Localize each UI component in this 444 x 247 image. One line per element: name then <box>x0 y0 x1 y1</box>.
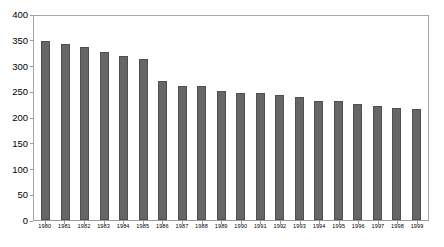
bar-slot <box>153 16 173 220</box>
x-axis-tick-slot: 1996 <box>349 224 369 240</box>
x-axis-tick-mark <box>104 221 105 224</box>
bar-slot <box>134 16 154 220</box>
bar[interactable] <box>295 97 304 220</box>
y-axis-tick-label: 350 <box>12 36 28 46</box>
bar[interactable] <box>41 41 50 220</box>
x-axis-tick-label: 1992 <box>270 224 290 230</box>
bar[interactable] <box>178 86 187 220</box>
bar[interactable] <box>197 86 206 220</box>
x-axis-tick-slot: 1994 <box>309 224 329 240</box>
bar[interactable] <box>139 59 148 220</box>
bar-slot <box>407 16 427 220</box>
x-axis-tick-mark <box>397 221 398 224</box>
x-axis-tick-slot: 1997 <box>368 224 388 240</box>
x-axis-tick-slot: 1991 <box>251 224 271 240</box>
y-axis-tick-label: 400 <box>12 10 28 20</box>
x-axis-tick-label: 1990 <box>231 224 251 230</box>
x-axis-tick-label: 1980 <box>35 224 55 230</box>
bar[interactable] <box>353 104 362 220</box>
x-axis-tick-slot: 1982 <box>74 224 94 240</box>
x-axis-tick-mark <box>241 221 242 224</box>
y-axis-tick-label: 150 <box>12 139 28 149</box>
x-axis-tick-label: 1981 <box>55 224 75 230</box>
bar[interactable] <box>236 93 245 220</box>
bar-slot <box>270 16 290 220</box>
x-axis-tick-slot: 1993 <box>290 224 310 240</box>
x-axis-tick-slot: 1980 <box>35 224 55 240</box>
x-axis-tick-mark <box>358 221 359 224</box>
x-axis-tick-mark <box>182 221 183 224</box>
x-axis-tick-slot: 1998 <box>388 224 408 240</box>
bar[interactable] <box>392 108 401 220</box>
x-axis-tick-label: 1998 <box>388 224 408 230</box>
y-axis-tick-label: 250 <box>12 88 28 98</box>
x-axis-tick-label: 1985 <box>133 224 153 230</box>
bar[interactable] <box>256 93 265 220</box>
x-axis-tick-label: 1997 <box>368 224 388 230</box>
x-axis-tick-slot: 1984 <box>113 224 133 240</box>
y-axis-tick-label: 100 <box>12 165 28 175</box>
y-axis-tick-label: 50 <box>17 191 28 201</box>
bar-slot <box>95 16 115 220</box>
bar-slot <box>36 16 56 220</box>
bar[interactable] <box>119 56 128 221</box>
x-axis-tick-label: 1986 <box>153 224 173 230</box>
x-axis-tick-mark <box>143 221 144 224</box>
x-axis-tick-mark <box>202 221 203 224</box>
bar[interactable] <box>373 106 382 220</box>
bar[interactable] <box>158 81 167 220</box>
bar-slot <box>212 16 232 220</box>
x-axis-tick-label: 1983 <box>94 224 114 230</box>
x-axis-tick-mark <box>64 221 65 224</box>
x-axis-tick-slot: 1995 <box>329 224 349 240</box>
x-axis-tick-label: 1993 <box>290 224 310 230</box>
x-axis-tick-mark <box>319 221 320 224</box>
bar-slot <box>348 16 368 220</box>
x-axis-tick-mark <box>417 221 418 224</box>
y-axis-tick-label: 200 <box>12 113 28 123</box>
x-axis-tick-label: 1994 <box>309 224 329 230</box>
bar[interactable] <box>61 44 70 220</box>
bar[interactable] <box>412 109 421 220</box>
bar-slot <box>251 16 271 220</box>
x-axis-tick-slot: 1981 <box>55 224 75 240</box>
x-axis-tick-mark <box>260 221 261 224</box>
x-axis-tick-slot: 1999 <box>407 224 427 240</box>
x-axis-tick-label: 1991 <box>251 224 271 230</box>
bar[interactable] <box>275 95 284 220</box>
x-axis-tick-label: 1988 <box>192 224 212 230</box>
bar[interactable] <box>217 91 226 220</box>
x-axis-tick-mark <box>162 221 163 224</box>
y-axis-tick-label: 0 <box>23 216 28 226</box>
x-axis-tick-label: 1982 <box>74 224 94 230</box>
x-axis-tick-mark <box>378 221 379 224</box>
bar-slot <box>231 16 251 220</box>
bar[interactable] <box>80 47 89 220</box>
bar-slot <box>368 16 388 220</box>
x-axis-tick-label: 1999 <box>407 224 427 230</box>
bar[interactable] <box>314 101 323 220</box>
x-axis-tick-mark <box>339 221 340 224</box>
x-axis-tick-mark <box>300 221 301 224</box>
x-axis-tick-mark <box>45 221 46 224</box>
bar-slot <box>56 16 76 220</box>
x-axis-tick-slot: 1988 <box>192 224 212 240</box>
bar-slot <box>387 16 407 220</box>
y-axis-tick-label: 300 <box>12 62 28 72</box>
y-axis: 050100150200250300350400 <box>0 0 32 247</box>
x-axis-tick-label: 1984 <box>113 224 133 230</box>
bar-slot <box>75 16 95 220</box>
bar-chart: 050100150200250300350400 198019811982198… <box>0 0 444 247</box>
x-axis-tick-label: 1996 <box>349 224 369 230</box>
x-axis-tick-slot: 1983 <box>94 224 114 240</box>
plot-area <box>33 15 429 221</box>
bar[interactable] <box>334 101 343 220</box>
x-axis-tick-label: 1989 <box>211 224 231 230</box>
x-axis-tick-mark <box>280 221 281 224</box>
x-axis-tick-slot: 1987 <box>172 224 192 240</box>
x-axis: 1980198119821983198419851986198719881989… <box>33 224 429 240</box>
bar-slot <box>114 16 134 220</box>
x-axis-tick-slot: 1990 <box>231 224 251 240</box>
bar[interactable] <box>100 52 109 220</box>
x-axis-tick-label: 1987 <box>172 224 192 230</box>
